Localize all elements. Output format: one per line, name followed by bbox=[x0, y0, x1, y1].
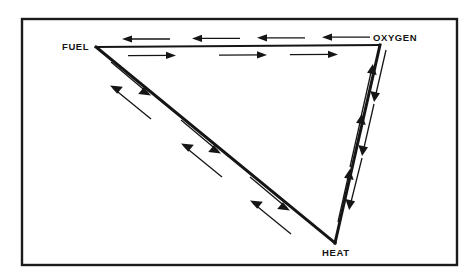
arrows-oxygen-to-fuel bbox=[122, 34, 370, 43]
top-edge bbox=[96, 45, 380, 47]
node-label-fuel: FUEL bbox=[62, 41, 89, 52]
arrows-fuel-to-oxygen bbox=[128, 51, 338, 59]
arrow-right-2 bbox=[219, 51, 267, 58]
arrows-fuel-to-heat bbox=[111, 62, 290, 211]
arrow-left-3 bbox=[257, 34, 305, 41]
arrow-left-1 bbox=[122, 35, 170, 42]
arrow-right-3 bbox=[290, 51, 338, 58]
arrow-left-2 bbox=[192, 35, 240, 42]
node-label-oxygen: OXYGEN bbox=[373, 32, 417, 43]
left-diagonal-edge bbox=[96, 47, 335, 243]
arrow-left-4 bbox=[322, 34, 370, 41]
arrows-heat-to-fuel bbox=[110, 86, 291, 235]
outer-frame bbox=[22, 19, 457, 265]
fire-triangle-diagram: FUEL OXYGEN HEAT bbox=[0, 0, 472, 277]
right-edge bbox=[335, 45, 380, 243]
arrows-oxygen-to-heat bbox=[345, 50, 386, 210]
node-label-heat: HEAT bbox=[322, 247, 350, 258]
diagram-canvas: FUEL OXYGEN HEAT bbox=[0, 0, 472, 277]
arrow-right-1 bbox=[128, 52, 176, 59]
